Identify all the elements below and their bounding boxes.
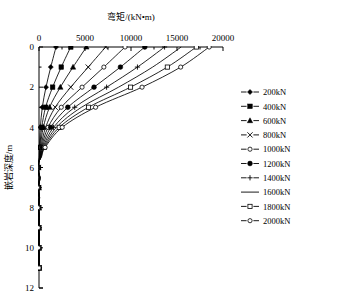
y-tick-label: 0 [30, 42, 35, 52]
series-marker [37, 266, 41, 270]
legend-label: 2000kN [263, 216, 290, 226]
marker-square [248, 104, 253, 109]
series-marker [165, 65, 169, 69]
series-1000kn [36, 45, 128, 270]
series-marker [179, 65, 183, 69]
series-marker [53, 105, 58, 110]
marker-open-square [194, 45, 198, 49]
legend-label: 1200kN [263, 159, 290, 169]
series-line [36, 47, 209, 268]
marker-open-circle [140, 85, 144, 89]
series-line [37, 47, 144, 268]
marker-open-circle [102, 65, 106, 69]
legend-label: 1600kN [263, 187, 290, 197]
series-marker [59, 105, 63, 109]
marker-open-circle [36, 246, 40, 250]
marker-triangle [58, 84, 63, 89]
legend-marker [248, 219, 252, 223]
marker-open-circle [60, 125, 64, 129]
y-tick-label: 4 [30, 123, 35, 133]
series-1800kn [34, 45, 198, 270]
series-marker [54, 45, 59, 50]
marker-open-circle [248, 147, 252, 151]
legend-item-2000kn[interactable]: 2000kN [241, 216, 290, 226]
marker-square [50, 85, 55, 90]
marker-open-circle [37, 266, 41, 270]
y-tick-label: 8 [30, 203, 35, 213]
legend-item-600kn[interactable]: 600kN [241, 116, 286, 126]
legend-label: 1800kN [263, 202, 290, 212]
series-marker [68, 45, 73, 50]
series-marker [140, 85, 144, 89]
marker-open-circle [179, 65, 183, 69]
legend-label: 1000kN [263, 144, 290, 154]
y-tick-label: 6 [30, 163, 35, 173]
marker-open-circle [207, 45, 211, 49]
marker-open-circle [35, 185, 39, 189]
series-marker [68, 85, 73, 90]
series-marker [43, 145, 47, 149]
x-tick-label: 0 [37, 33, 42, 43]
marker-open-square [248, 204, 252, 208]
series-marker [128, 85, 132, 89]
marker-open-circle [123, 45, 127, 49]
series-marker [36, 206, 40, 210]
series-marker [43, 85, 48, 90]
series-marker [194, 45, 198, 49]
series-marker [36, 246, 40, 250]
series-line [38, 47, 106, 268]
marker-open-circle [248, 219, 252, 223]
series-marker [70, 64, 75, 69]
series-marker [65, 105, 70, 110]
series-marker [207, 45, 211, 49]
legend-label: 200kN [263, 87, 286, 97]
series-marker [50, 85, 55, 90]
legend-item-1400kn[interactable]: 1400kN [241, 173, 290, 183]
series-marker [60, 125, 64, 129]
series-marker [48, 65, 53, 70]
marker-diamond [43, 85, 48, 90]
series-group [34, 44, 211, 270]
y-tick-label: 12 [25, 283, 34, 293]
series-marker [118, 65, 123, 70]
marker-circle [92, 85, 97, 90]
marker-open-circle [36, 206, 40, 210]
marker-open-square [34, 165, 38, 169]
marker-circle [65, 105, 70, 110]
legend-item-800kn[interactable]: 800kN [241, 130, 286, 140]
series-line [37, 47, 181, 268]
series-marker [142, 45, 147, 50]
legend-item-1200kn[interactable]: 1200kN [241, 159, 290, 169]
series-marker [135, 64, 140, 69]
series-marker [86, 105, 90, 109]
legend-marker [248, 161, 253, 166]
legend-marker [248, 147, 252, 151]
x-tick-label: 20000 [212, 33, 235, 43]
marker-circle [142, 45, 147, 50]
series-line [36, 47, 196, 268]
marker-open-square [165, 65, 169, 69]
marker-open-circle [59, 105, 63, 109]
legend-marker [248, 204, 252, 208]
series-marker [93, 105, 97, 109]
marker-square [59, 65, 64, 70]
legend-item-1800kn[interactable]: 1800kN [241, 202, 290, 212]
series-1600kn [37, 47, 181, 268]
y-tick-label: 2 [30, 82, 35, 92]
legend-item-1000kn[interactable]: 1000kN [241, 144, 290, 154]
series-marker [36, 226, 40, 230]
marker-square [68, 45, 73, 50]
series-marker [123, 45, 127, 49]
legend-item-1600kn[interactable]: 1600kN [241, 187, 290, 197]
legend-item-400kn[interactable]: 400kN [241, 102, 286, 112]
chart-figure: 05000100001500020000024681012弯矩/(kN•m)嵌岩… [0, 0, 343, 303]
marker-open-circle [43, 145, 47, 149]
marker-open-square [128, 85, 132, 89]
series-marker [104, 85, 109, 90]
marker-open-circle [36, 226, 40, 230]
marker-open-circle [34, 165, 38, 169]
y-axis-title: 嵌岩深度/m [3, 145, 14, 191]
legend-item-200kn[interactable]: 200kN [241, 87, 286, 97]
series-marker [92, 85, 97, 90]
legend-label: 800kN [263, 130, 286, 140]
